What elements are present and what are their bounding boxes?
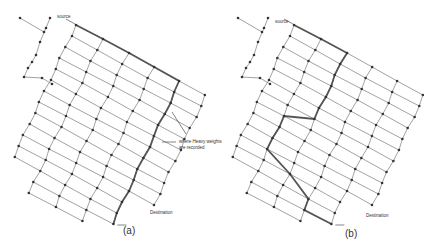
network-graph-a <box>0 0 218 248</box>
source-label: source <box>275 20 289 25</box>
source-label: source <box>57 15 71 20</box>
destination-label: Destination <box>366 214 389 219</box>
caption-a: (a) <box>123 225 135 236</box>
panel-b: source Destination (b) <box>218 0 436 248</box>
caption-b: (b) <box>345 228 357 239</box>
network-graph-b <box>218 0 436 248</box>
annotation-label-line2: are recorded <box>179 146 205 151</box>
destination-label: Destination <box>150 211 173 216</box>
panel-a: source where Heavy weights are recorded … <box>0 0 218 248</box>
